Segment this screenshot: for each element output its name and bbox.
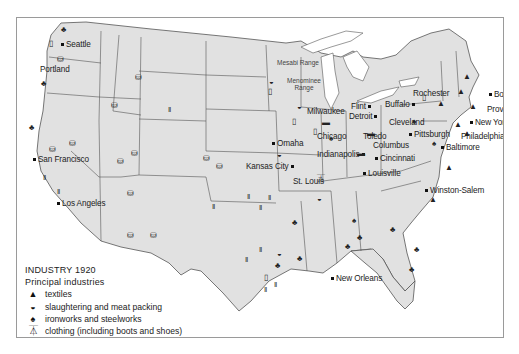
lumber-icon: ♣	[41, 80, 46, 88]
mining-icon: ⛁	[49, 146, 56, 154]
lumber-icon: ♣	[357, 234, 362, 242]
flour-icon: ▯	[292, 118, 296, 126]
mining-icon: ‖	[264, 286, 267, 294]
automobile-icon: ▬	[322, 119, 330, 127]
legend-title: INDUSTRY 1920	[25, 264, 225, 276]
lumber-icon: ♣	[297, 255, 302, 263]
city-pittsburgh: Pittsburgh	[407, 131, 450, 139]
slaughtering-icon: ◒	[297, 103, 302, 111]
textiles-icon: ▲	[437, 100, 445, 108]
slaughtering-icon: ◒	[25, 301, 41, 313]
city-louisville: Louisville	[361, 170, 401, 178]
city-baltimore: Baltimore	[439, 144, 480, 152]
automobile-icon: ▬	[367, 130, 375, 138]
textiles-icon: ▲	[25, 288, 41, 300]
ironworks-icon: ♠	[25, 313, 41, 325]
flour-icon: ▯	[264, 274, 268, 282]
clothing-icon: ⏄	[25, 325, 41, 337]
automobile-icon: ▬	[357, 150, 365, 158]
mining-icon: ‖	[168, 106, 171, 114]
city-cincinnati: Cincinnati	[373, 155, 415, 163]
lumber-icon: ♣	[409, 266, 414, 274]
legend-subtitle: Principal industries	[25, 276, 225, 288]
textiles-icon: ▲	[429, 196, 437, 204]
mining-icon: ‖	[247, 193, 250, 201]
flour-icon: ▯	[313, 128, 317, 136]
lumber-icon: ♣	[414, 246, 419, 254]
city-rochester: Rochester	[413, 90, 449, 98]
mining-icon: ‖	[212, 203, 215, 211]
map-legend: INDUSTRY 1920 Principal industries ▲text…	[25, 264, 225, 338]
mining-icon: ⛁	[57, 56, 64, 64]
mining-icon: ⛁	[69, 140, 76, 148]
slaughtering-icon: ◒	[277, 151, 282, 159]
city-columbus: Columbus	[373, 142, 409, 150]
slaughtering-icon: ◒	[269, 78, 274, 86]
flour-icon: ▯	[422, 94, 426, 102]
automobile-icon: ▬	[25, 337, 41, 338]
legend-item-ironworks: ♠ironworks and steelworks	[25, 313, 225, 325]
textiles-icon: ▲	[445, 164, 453, 172]
city-new-orleans: New Orleans	[329, 275, 382, 283]
map-frame: Mesabi Range Menominee Range Seattle Por…	[16, 17, 504, 338]
textiles-icon: ▲	[454, 121, 462, 129]
city-milwaukee: Milwaukee	[307, 108, 345, 116]
lumber-icon: ♣	[29, 124, 34, 132]
lumber-icon: ♣	[275, 262, 280, 270]
mining-icon: ‖	[43, 174, 46, 182]
ironworks-icon: ♠	[432, 140, 436, 148]
city-detroit: Detroit	[349, 113, 379, 121]
legend-item-clothing: ⏄clothing (including boots and shoes)	[25, 325, 225, 337]
mining-icon: ‖	[268, 194, 271, 202]
ironworks-icon: ♠	[412, 118, 416, 126]
clothing-icon: ⏄	[317, 176, 325, 184]
textiles-icon: ▲	[463, 73, 471, 81]
mining-icon: ⛁	[131, 150, 138, 158]
mining-icon: ⛁	[127, 190, 134, 198]
legend-item-textiles: ▲textiles	[25, 288, 225, 300]
city-flint: Flint	[351, 103, 373, 111]
mining-icon: ⛁	[117, 158, 124, 166]
textiles-icon: ▲	[463, 130, 471, 138]
ironworks-icon: ♠	[352, 217, 356, 225]
city-winston-salem: Winston-Salem	[423, 187, 484, 195]
region-label-mesabi: Mesabi Range	[277, 60, 319, 67]
slaughtering-icon: ◒	[317, 195, 322, 203]
city-los-angeles: Los Angeles	[55, 200, 106, 208]
legend-item-slaughtering: ◒slaughtering and meat packing	[25, 301, 225, 313]
city-omaha: Omaha	[270, 140, 303, 148]
mining-icon: ⛁	[111, 102, 118, 110]
mining-icon: ‖	[274, 281, 277, 289]
slaughtering-icon: ◒	[277, 250, 282, 258]
mining-icon: ⛁	[216, 163, 223, 171]
flour-icon: ▯	[268, 88, 272, 96]
mining-icon: ⛁	[203, 155, 210, 163]
city-seattle: Seattle	[59, 41, 91, 49]
flour-icon: ▯	[49, 40, 53, 48]
city-buffalo: Buffalo	[385, 101, 417, 109]
city-san-francisco: San Francisco	[31, 156, 89, 164]
mining-icon: ‖	[245, 256, 248, 264]
textiles-icon: ▲	[469, 103, 477, 111]
mining-icon: ⛁	[150, 232, 157, 240]
city-providence: Providence	[487, 106, 504, 114]
lumber-icon: ♣	[61, 26, 66, 34]
city-new-york: New York	[468, 119, 504, 127]
mining-icon: ⛁	[135, 74, 142, 82]
region-label-menominee: Menominee Range	[285, 78, 323, 92]
city-portland: Portland	[40, 66, 70, 74]
mining-icon: ⛁	[127, 232, 134, 240]
city-boston: Boston	[487, 91, 504, 99]
lumber-icon: ♣	[292, 219, 297, 227]
ironworks-icon: ♠	[329, 135, 333, 143]
mining-icon: ‖	[259, 246, 262, 254]
legend-item-automobiles: ▬automobiles and parts	[25, 337, 225, 338]
lumber-icon: ♣	[345, 243, 350, 251]
lake-superior	[301, 31, 363, 53]
textiles-icon: ▲	[457, 88, 465, 96]
mining-icon: ‖	[259, 204, 262, 212]
lumber-icon: ♣	[390, 226, 395, 234]
mining-icon: ‖	[57, 188, 60, 196]
city-cleveland: Cleveland	[389, 119, 425, 127]
city-kansas-city: Kansas City	[246, 163, 296, 171]
